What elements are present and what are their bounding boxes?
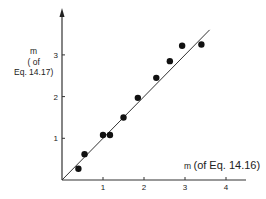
data-point (167, 58, 173, 64)
data-point (153, 75, 159, 81)
fit-line (62, 30, 210, 180)
data-point (107, 132, 113, 138)
y-axis-label-symbol: m (14, 46, 53, 57)
data-point (198, 41, 204, 47)
y-axis-label-line2: ( of (14, 57, 53, 68)
data-point (100, 132, 106, 138)
x-axis-label-symbol: m (184, 161, 191, 171)
x-axis-label: m (of Eq. 14.16) (184, 160, 260, 172)
y-axis-arrow-icon (60, 8, 65, 17)
x-ticks: 1234 (101, 177, 229, 192)
x-tick-label: 3 (183, 183, 188, 192)
y-axis-label-line3: Eq. 14.17) (14, 67, 53, 78)
data-points (75, 41, 204, 172)
x-tick-label: 4 (224, 183, 229, 192)
y-tick-label: 1 (54, 134, 59, 143)
y-tick-label: 2 (54, 93, 59, 102)
y-ticks: 123 (54, 51, 65, 143)
data-point (120, 114, 126, 120)
data-point (75, 166, 81, 172)
x-tick-label: 1 (101, 183, 106, 192)
y-tick-label: 3 (54, 51, 59, 60)
data-point (81, 151, 87, 157)
data-point (179, 43, 185, 49)
x-tick-label: 2 (142, 183, 147, 192)
x-axis-label-text: (of Eq. 14.16) (193, 159, 260, 171)
data-point (135, 95, 141, 101)
y-axis-label: m ( of Eq. 14.17) (14, 46, 53, 78)
